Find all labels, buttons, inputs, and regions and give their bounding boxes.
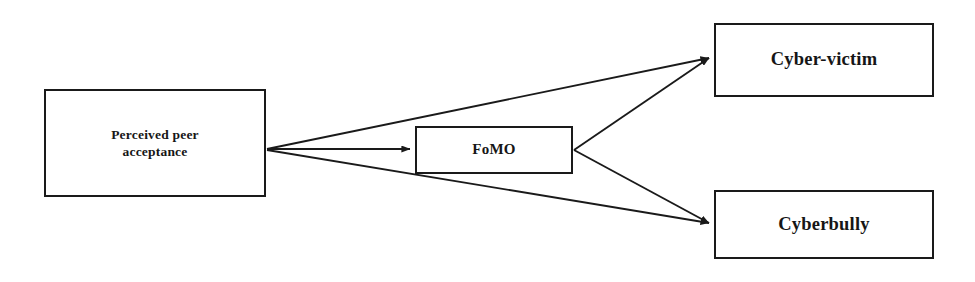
node-fomo: FoMO xyxy=(415,126,573,174)
path-diagram-canvas: Perceived peer acceptance FoMO Cyber-vic… xyxy=(0,0,975,282)
node-cyberbully: Cyberbully xyxy=(714,190,934,259)
node-perceived-peer-acceptance: Perceived peer acceptance xyxy=(44,89,266,197)
node-label-fomo: FoMO xyxy=(472,140,515,159)
node-label-cyber-victim: Cyber-victim xyxy=(771,48,878,72)
node-cyber-victim: Cyber-victim xyxy=(714,23,934,97)
node-label-cyberbully: Cyberbully xyxy=(778,213,869,237)
node-label-perceived-peer-acceptance: Perceived peer acceptance xyxy=(111,126,199,161)
